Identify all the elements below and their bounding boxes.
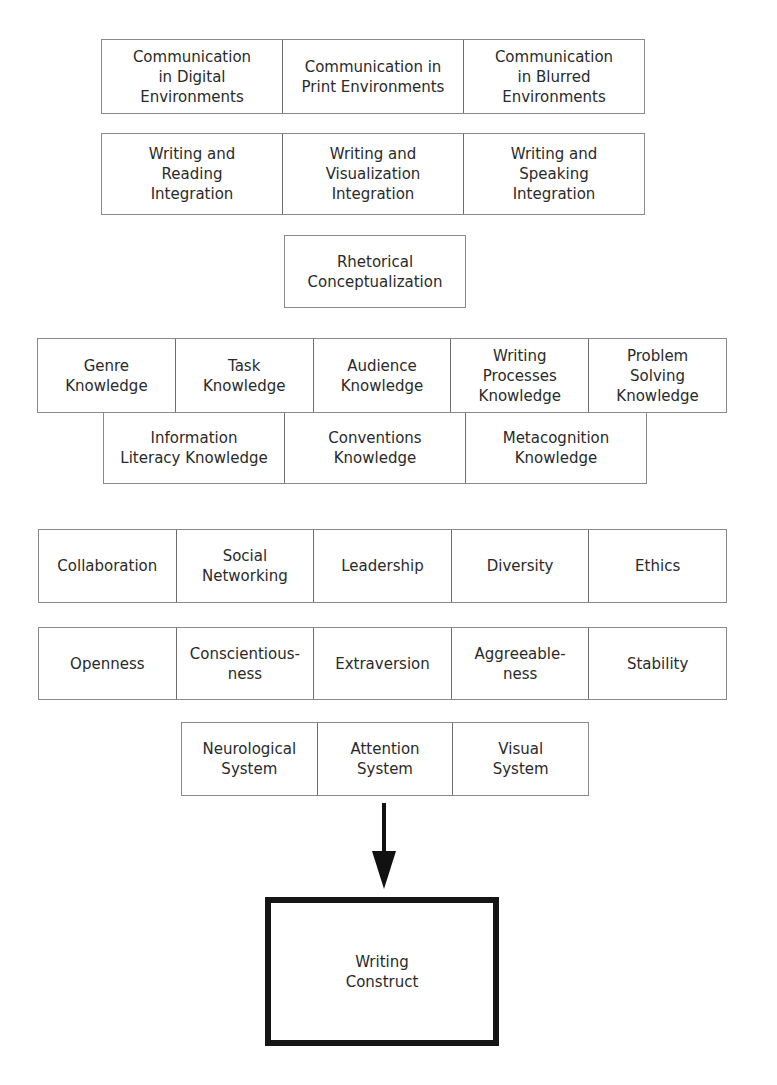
box-openness: Openness — [39, 628, 177, 699]
box-visual-system: Visual System — [453, 723, 588, 795]
box-attention-system: Attention System — [318, 723, 454, 795]
arrow-head-icon — [372, 851, 396, 889]
box-metacognition-knowledge: Metacognition Knowledge — [466, 413, 646, 483]
box-problem-solving-knowledge: Problem Solving Knowledge — [589, 339, 726, 412]
box-task-knowledge: Task Knowledge — [176, 339, 314, 412]
box-writing-construct: Writing Construct — [265, 897, 499, 1046]
communication-environments-row: Communication in Digital Environments Co… — [101, 39, 645, 114]
box-writing-visualization: Writing and Visualization Integration — [283, 134, 464, 214]
box-rhetorical-conceptualization: Rhetorical Conceptualization — [284, 235, 466, 308]
box-writing-reading: Writing and Reading Integration — [102, 134, 283, 214]
box-social-networking: Social Networking — [177, 530, 315, 602]
box-stability: Stability — [589, 628, 726, 699]
box-conscientiousness: Conscientious- ness — [177, 628, 315, 699]
box-communication-digital: Communication in Digital Environments — [102, 40, 283, 113]
box-communication-blurred: Communication in Blurred Environments — [464, 40, 644, 113]
knowledge-row-1: Genre Knowledge Task Knowledge Audience … — [37, 338, 727, 413]
box-audience-knowledge: Audience Knowledge — [314, 339, 452, 412]
box-extraversion: Extraversion — [314, 628, 452, 699]
box-collaboration: Collaboration — [39, 530, 177, 602]
systems-row: Neurological System Attention System Vis… — [181, 722, 589, 796]
box-leadership: Leadership — [314, 530, 452, 602]
down-arrow-icon — [382, 803, 386, 853]
box-ethics: Ethics — [589, 530, 726, 602]
integrations-row: Writing and Reading Integration Writing … — [101, 133, 645, 215]
box-diversity: Diversity — [452, 530, 590, 602]
box-neurological-system: Neurological System — [182, 723, 318, 795]
box-information-literacy-knowledge: Information Literacy Knowledge — [104, 413, 285, 483]
box-writing-processes-knowledge: Writing Processes Knowledge — [451, 339, 589, 412]
box-genre-knowledge: Genre Knowledge — [38, 339, 176, 412]
interpersonal-row: Collaboration Social Networking Leadersh… — [38, 529, 727, 603]
box-communication-print: Communication in Print Environments — [283, 40, 464, 113]
box-writing-speaking: Writing and Speaking Integration — [464, 134, 644, 214]
personality-row: Openness Conscientious- ness Extraversio… — [38, 627, 727, 700]
box-agreeableness: Aggreeable- ness — [452, 628, 590, 699]
knowledge-row-2: Information Literacy Knowledge Conventio… — [103, 412, 647, 484]
box-conventions-knowledge: Conventions Knowledge — [285, 413, 466, 483]
